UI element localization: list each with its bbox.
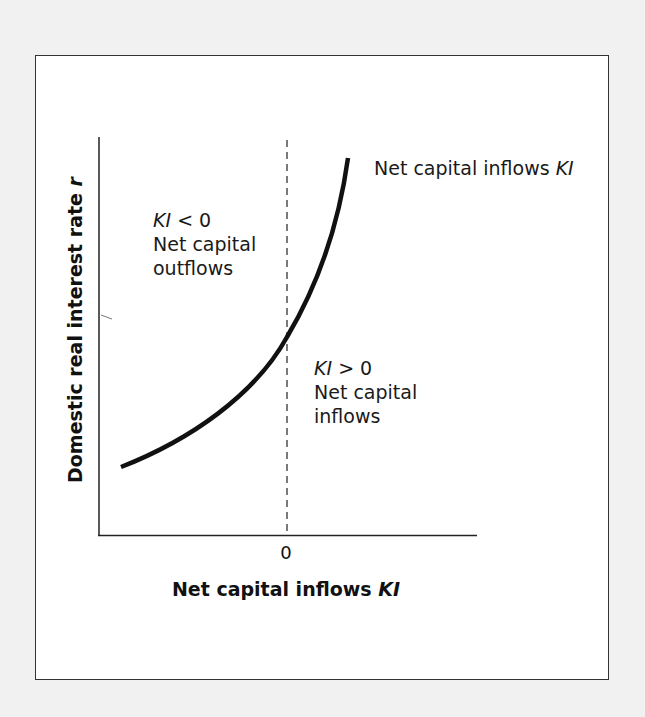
x-axis-title: Net capital inflows KI: [172, 578, 400, 600]
left-region-line2: outflows: [153, 256, 256, 280]
y-axis-title: Domestic real interest rate r: [64, 177, 86, 483]
left-region-line1: Net capital: [153, 232, 256, 256]
x-tick-zero: 0: [280, 542, 291, 563]
stray-mark: [101, 315, 112, 319]
left-region-var: KI: [153, 209, 171, 231]
curve-label: Net capital inflows KI: [374, 156, 574, 180]
x-axis-title-text: Net capital inflows: [172, 578, 372, 600]
y-axis-title-var: r: [64, 177, 86, 186]
curve-label-var: KI: [556, 157, 574, 179]
curve-label-text: Net capital inflows: [374, 157, 550, 179]
right-region-var: KI: [314, 357, 332, 379]
right-region-line1: Net capital: [314, 380, 417, 404]
right-region-relation: > 0: [338, 357, 372, 379]
right-region-annotation: KI > 0 Net capital inflows: [314, 356, 417, 428]
y-axis-title-text: Domestic real interest rate: [64, 193, 86, 483]
right-region-line2: inflows: [314, 404, 417, 428]
left-region-annotation: KI < 0 Net capital outflows: [153, 208, 256, 280]
x-axis-title-var: KI: [378, 578, 400, 600]
left-region-relation: < 0: [177, 209, 211, 231]
